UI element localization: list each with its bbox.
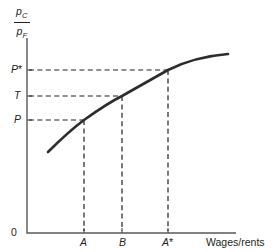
x-tick-label-a: A xyxy=(80,237,87,248)
y-tick-label-t: T xyxy=(14,90,20,101)
axis-lines xyxy=(27,38,236,233)
fraction-bar xyxy=(14,22,30,23)
y-tick-label-p-star: P* xyxy=(11,64,22,75)
price-ratio-curve xyxy=(48,54,228,152)
x-tick-label-b: B xyxy=(119,237,126,248)
economics-line-chart: pC pF 0 P* T P A B A* Wages/rents xyxy=(0,0,280,252)
x-axis-label: Wages/rents xyxy=(206,237,265,248)
origin-label: 0 xyxy=(11,227,17,238)
chart-canvas xyxy=(0,0,280,252)
y-axis-label-denominator: pF xyxy=(14,24,30,40)
x-tick-label-a-star: A* xyxy=(162,237,173,248)
y-axis-label: pC pF xyxy=(14,5,30,40)
y-axis-label-numerator: pC xyxy=(14,5,30,21)
y-tick-label-p: P xyxy=(14,114,21,125)
